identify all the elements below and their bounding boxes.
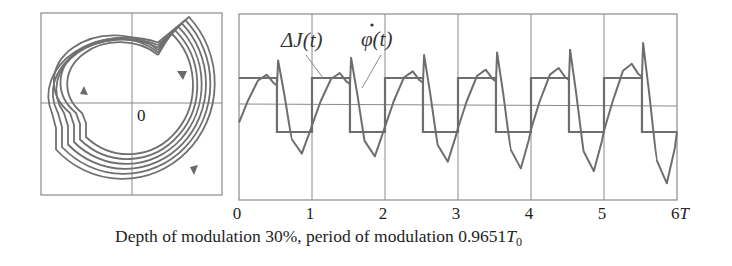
- delta-j-leader-line: [306, 55, 323, 78]
- x-tick-label: 6T: [671, 204, 691, 223]
- arrow-icon: [80, 86, 88, 95]
- caption-symbol: T: [506, 226, 516, 246]
- spiral-loop: [54, 27, 202, 164]
- figure-caption: Depth of modulation 30%, period of modul…: [115, 226, 522, 250]
- caption-subscript: 0: [516, 235, 522, 249]
- origin-label: 0: [137, 106, 146, 125]
- x-tick-label: 0: [233, 204, 242, 223]
- time-series-panel: ΔJ(t) φ(t) 0123456T: [233, 14, 691, 223]
- x-tick-label: 3: [452, 204, 461, 223]
- phi-dot-overdot: [370, 23, 373, 26]
- x-tick-label: 2: [379, 204, 388, 223]
- phi-dot-label: φ(t): [361, 27, 392, 51]
- x-tick-labels: 0123456T: [233, 204, 691, 223]
- delta-j-label: ΔJ(t): [280, 28, 322, 52]
- x-tick-label: 1: [306, 204, 315, 223]
- phi-dot-leader-line: [362, 55, 381, 88]
- caption-text: Depth of modulation 30%, period of modul…: [115, 226, 506, 246]
- phase-portrait-panel: 0: [41, 13, 222, 195]
- x-tick-label: 5: [598, 204, 607, 223]
- arrow-icon: [177, 71, 187, 80]
- x-tick-label: 4: [525, 204, 534, 223]
- arrow-icon: [190, 165, 198, 175]
